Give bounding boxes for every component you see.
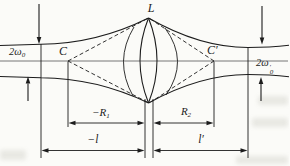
dashed-ray-c-upper (68, 19, 147, 61)
radius-left-label: −R1 (88, 107, 114, 118)
beam-diagram-svg (0, 0, 289, 166)
dashed-ray-cprime-lower (151, 61, 215, 102)
radius-right-dimension-arrow (154, 121, 214, 126)
waist-left-text: 2ω (9, 46, 22, 57)
radius-left-dimension-arrow (69, 121, 145, 126)
waist-left-label: 2ω0 (9, 47, 25, 58)
waist-right-subscript: 0 (270, 70, 274, 75)
distance-left-label: −l (82, 134, 104, 146)
radius-right-label: R2 (175, 106, 197, 117)
waist-right-label: 2ω′0 (256, 58, 273, 75)
waist-right-bottom-arrow-icon (259, 77, 264, 101)
waist-left-subscript: 0 (22, 51, 26, 59)
radius-right-text: R (181, 105, 188, 117)
waist-left-bottom-arrow-icon (26, 77, 31, 102)
distance-left-dimension-arrow (42, 148, 145, 153)
figure-canvas: L C C′ 2ω0 2ω′0 −R1 R2 −l l′ (0, 0, 289, 166)
waist-right-text: 2ω (256, 57, 269, 68)
distance-right-dimension-arrow (154, 148, 248, 153)
radius-left-subscript: 1 (106, 112, 110, 120)
radius-right-subscript: 2 (188, 111, 192, 119)
center-left-label: C (59, 45, 67, 57)
beam-envelope-upper-left (0, 18, 149, 46)
dashed-ray-cprime-upper (150, 19, 214, 61)
distance-right-label: l′ (191, 134, 211, 146)
waist-right-top-arrow-icon (260, 6, 265, 45)
beam-envelope-upper-right (149, 18, 290, 48)
waist-left-top-arrow-icon (37, 4, 42, 44)
center-right-label: C′ (207, 44, 218, 56)
radius-left-text: −R (92, 106, 106, 118)
lens-label: L (145, 2, 157, 14)
